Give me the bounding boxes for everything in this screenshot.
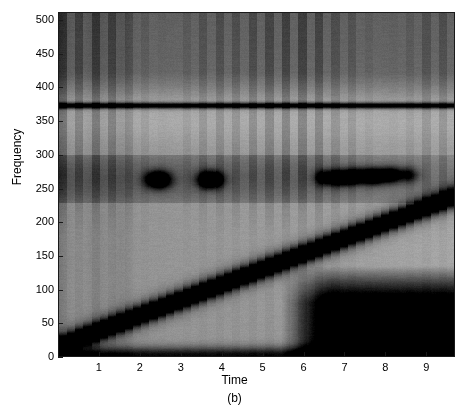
figure-caption: (b) — [0, 391, 469, 405]
spectrogram-figure: 050100150200250300350400450500 123456789… — [0, 0, 469, 407]
y-tick-label: 50 — [0, 317, 54, 328]
y-tick-mark — [58, 357, 63, 358]
x-tick-mark — [304, 352, 305, 357]
x-tick-mark — [426, 352, 427, 357]
y-tick-mark — [58, 256, 63, 257]
x-tick-mark — [140, 352, 141, 357]
y-tick-label: 500 — [0, 14, 54, 25]
y-axis-label: Frequency — [10, 112, 24, 202]
y-tick-label: 400 — [0, 81, 54, 92]
x-axis-label: Time — [0, 373, 469, 387]
spectrogram-plot-area — [58, 12, 455, 357]
y-tick-label: 100 — [0, 284, 54, 295]
y-tick-mark — [58, 20, 63, 21]
x-tick-label: 7 — [324, 362, 364, 373]
x-tick-label: 4 — [202, 362, 242, 373]
x-tick-label: 2 — [120, 362, 160, 373]
y-tick-label: 450 — [0, 48, 54, 59]
x-tick-mark — [99, 352, 100, 357]
y-tick-mark — [58, 87, 63, 88]
y-tick-mark — [58, 222, 63, 223]
y-tick-label: 200 — [0, 216, 54, 227]
x-tick-label: 9 — [406, 362, 446, 373]
y-tick-label: 350 — [0, 115, 54, 126]
x-tick-mark — [222, 352, 223, 357]
x-tick-label: 1 — [79, 362, 119, 373]
x-tick-label: 3 — [161, 362, 201, 373]
x-tick-label: 8 — [365, 362, 405, 373]
y-tick-mark — [58, 189, 63, 190]
y-tick-label: 150 — [0, 250, 54, 261]
y-tick-mark — [58, 121, 63, 122]
x-tick-mark — [344, 352, 345, 357]
spectrogram-image — [58, 12, 455, 357]
y-tick-mark — [58, 290, 63, 291]
x-tick-mark — [181, 352, 182, 357]
x-tick-mark — [263, 352, 264, 357]
y-tick-mark — [58, 155, 63, 156]
y-tick-mark — [58, 323, 63, 324]
x-tick-label: 6 — [284, 362, 324, 373]
y-tick-label: 300 — [0, 149, 54, 160]
x-tick-label: 5 — [243, 362, 283, 373]
y-tick-label: 0 — [0, 351, 54, 362]
x-tick-mark — [385, 352, 386, 357]
y-tick-mark — [58, 54, 63, 55]
y-tick-label: 250 — [0, 183, 54, 194]
